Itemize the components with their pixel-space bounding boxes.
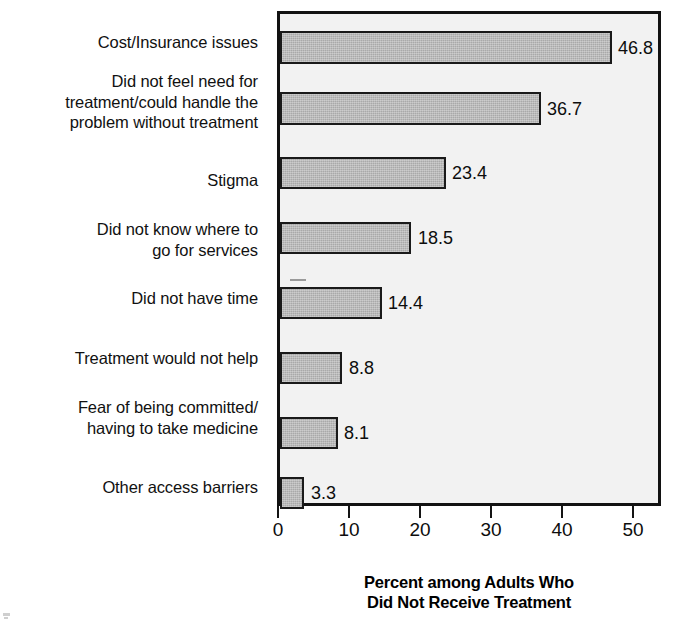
category-label: Cost/Insurance issues <box>0 32 268 53</box>
bar-value-label: 3.3 <box>311 484 336 502</box>
bar-value-label: 8.8 <box>349 359 374 377</box>
category-label: Other access barriers <box>0 477 268 498</box>
bar-value-label: 14.4 <box>388 294 423 312</box>
bar-cost-insurance-issues <box>280 31 612 64</box>
category-axis-labels: Cost/Insurance issues Did not feel need … <box>0 11 268 505</box>
bar-value-label: 18.5 <box>418 229 453 247</box>
x-axis-title: Percent among Adults Who Did Not Receive… <box>277 572 661 612</box>
bar-treatment-would-not-help <box>280 352 342 384</box>
x-axis-tick-label: 50 <box>622 519 643 541</box>
scan-speckle <box>4 617 8 619</box>
bar-other-access-barriers <box>280 477 304 509</box>
bar-value-label: 23.4 <box>452 164 487 182</box>
bar-value-label: 46.8 <box>618 39 653 57</box>
scan-speckle <box>3 613 10 616</box>
category-label: Fear of being committed/ having to take … <box>0 397 268 438</box>
x-axis-tick <box>561 506 563 518</box>
x-axis-tick <box>277 506 279 518</box>
bar-stigma <box>280 157 446 189</box>
x-axis: 0 10 20 30 40 50 <box>277 506 661 556</box>
category-label: Stigma <box>0 170 268 191</box>
x-axis-tick <box>490 506 492 518</box>
x-axis-tick-label: 10 <box>338 519 359 541</box>
category-label: Did not feel need for treatment/could ha… <box>0 71 268 133</box>
bar-value-label: 8.1 <box>344 424 369 442</box>
bar-fear-of-being-committed <box>280 417 338 449</box>
x-axis-tick-label: 20 <box>409 519 430 541</box>
bar-chart: Cost/Insurance issues Did not feel need … <box>0 0 675 625</box>
bar-did-not-feel-need <box>280 92 541 125</box>
bar-did-not-know-where-to-go <box>280 222 411 254</box>
x-axis-tick <box>419 506 421 518</box>
scan-artifact <box>290 279 306 281</box>
bar-value-label: 36.7 <box>547 100 582 118</box>
plot-area: 46.8 36.7 23.4 18.5 14.4 8.8 8.1 3.3 <box>277 11 661 506</box>
bar-did-not-have-time <box>280 287 382 319</box>
x-axis-tick <box>632 506 634 518</box>
x-axis-tick-label: 30 <box>480 519 501 541</box>
x-axis-tick <box>348 506 350 518</box>
x-axis-tick-label: 40 <box>551 519 572 541</box>
x-axis-tick-label: 0 <box>273 519 284 541</box>
category-label: Did not know where to go for services <box>0 219 268 260</box>
category-label: Treatment would not help <box>0 348 268 369</box>
plot-inner: 46.8 36.7 23.4 18.5 14.4 8.8 8.1 3.3 <box>280 14 658 503</box>
category-label: Did not have time <box>0 288 268 309</box>
